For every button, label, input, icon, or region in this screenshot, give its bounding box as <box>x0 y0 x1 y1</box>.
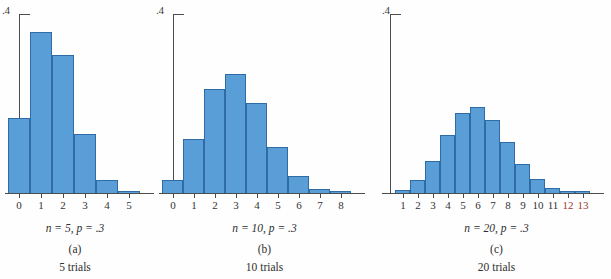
bar <box>425 161 440 193</box>
x-axis-tick <box>257 193 258 198</box>
caption-params-b-text: n = 10, p = .3 <box>232 222 296 234</box>
x-axis-tick <box>194 193 195 198</box>
bar <box>8 118 30 193</box>
bar-series-b <box>152 0 377 193</box>
x-axis-line-b <box>159 193 365 194</box>
bar-series-a <box>0 0 150 193</box>
caption-params-c: n = 20, p = .3 <box>382 222 611 234</box>
bar <box>485 120 500 193</box>
x-axis-tick <box>418 193 419 198</box>
x-axis-tick-label: 11 <box>545 199 561 211</box>
plot-area-a: .4 012345 <box>0 0 150 200</box>
bar <box>96 180 118 193</box>
x-axis-tick-label: 3 <box>227 199 245 211</box>
bar <box>162 180 183 193</box>
x-axis-tick <box>583 193 584 198</box>
chart-panel-a: .4 012345 n = 5, p = .3 (a) 5 trials <box>0 0 150 279</box>
x-axis-tick-label: 4 <box>98 199 116 211</box>
x-axis-tick <box>215 193 216 198</box>
bar <box>440 135 455 193</box>
x-axis-tick-label: 12 <box>560 199 576 211</box>
x-axis-tick <box>85 193 86 198</box>
binomial-distribution-figure: .4 012345 n = 5, p = .3 (a) 5 trials .4 … <box>0 0 611 279</box>
caption-params-c-text: n = 20, p = .3 <box>464 222 528 234</box>
x-axis-tick-label: 1 <box>32 199 50 211</box>
bar <box>52 55 74 193</box>
bar <box>515 164 530 193</box>
x-axis-tick <box>508 193 509 198</box>
x-axis-tick-label: 6 <box>470 199 486 211</box>
bar <box>267 147 288 193</box>
x-axis-tick-label: 1 <box>185 199 203 211</box>
bar <box>74 134 96 193</box>
x-axis-tick <box>553 193 554 198</box>
x-axis-tick-label: 10 <box>530 199 546 211</box>
x-axis-tick <box>463 193 464 198</box>
x-axis-tick-label: 1 <box>395 199 411 211</box>
x-axis-tick <box>19 193 20 198</box>
x-axis-tick <box>129 193 130 198</box>
x-axis-tick <box>568 193 569 198</box>
caption-trials-c: 20 trials <box>382 261 611 273</box>
x-axis-tick-label: 2 <box>410 199 426 211</box>
bar <box>204 89 225 193</box>
x-axis-tick-label: 7 <box>311 199 329 211</box>
x-axis-tick <box>478 193 479 198</box>
x-axis-tick <box>433 193 434 198</box>
plot-area-c: .4 12345678910111213 <box>382 0 611 200</box>
caption-letter-b: (b) <box>152 243 377 255</box>
x-axis-tick <box>523 193 524 198</box>
x-axis-tick-label: 4 <box>248 199 266 211</box>
x-axis-tick <box>341 193 342 198</box>
bar <box>183 139 204 193</box>
plot-area-b: .4 012345678 <box>152 0 377 200</box>
caption-letter-c: (c) <box>382 243 611 255</box>
bar <box>500 142 515 193</box>
x-axis-tick <box>63 193 64 198</box>
x-axis-tick-label: 13 <box>575 199 591 211</box>
x-axis-tick <box>320 193 321 198</box>
caption-trials-a: 5 trials <box>0 261 150 273</box>
x-axis-tick <box>448 193 449 198</box>
x-axis-tick-label: 3 <box>76 199 94 211</box>
bar <box>288 176 309 193</box>
x-axis-tick-label: 2 <box>206 199 224 211</box>
x-axis-tick-label: 9 <box>515 199 531 211</box>
x-axis-tick-label: 5 <box>269 199 287 211</box>
x-axis-line-a <box>5 193 154 194</box>
x-axis-tick-label: 0 <box>164 199 182 211</box>
x-axis-tick-label: 7 <box>485 199 501 211</box>
x-axis-tick-label: 2 <box>54 199 72 211</box>
bar <box>30 32 52 193</box>
x-axis-tick <box>41 193 42 198</box>
caption-trials-b: 10 trials <box>152 261 377 273</box>
x-axis-tick <box>107 193 108 198</box>
x-axis-tick-label: 8 <box>500 199 516 211</box>
chart-panel-b: .4 012345678 n = 10, p = .3 (b) 10 trial… <box>152 0 377 279</box>
bar <box>246 103 267 193</box>
x-axis-tick <box>538 193 539 198</box>
caption-letter-a: (a) <box>0 243 150 255</box>
x-axis-tick-label: 5 <box>120 199 138 211</box>
bar <box>470 107 485 193</box>
caption-params-a: n = 5, p = .3 <box>0 222 150 234</box>
caption-params-a-text: n = 5, p = .3 <box>46 222 105 234</box>
bar <box>225 74 246 193</box>
x-axis-tick <box>173 193 174 198</box>
x-axis-tick <box>236 193 237 198</box>
x-axis-tick <box>403 193 404 198</box>
x-axis-tick-label: 4 <box>440 199 456 211</box>
bar <box>410 180 425 193</box>
x-axis-tick <box>278 193 279 198</box>
chart-panel-c: .4 12345678910111213 n = 20, p = .3 (c) … <box>382 0 611 279</box>
x-axis-tick-label: 5 <box>455 199 471 211</box>
bar <box>530 179 545 193</box>
x-axis-tick <box>493 193 494 198</box>
x-axis-tick <box>299 193 300 198</box>
bar <box>455 113 470 193</box>
bar-series-c <box>382 0 611 193</box>
x-axis-tick-label: 8 <box>332 199 350 211</box>
x-axis-tick-label: 6 <box>290 199 308 211</box>
caption-params-b: n = 10, p = .3 <box>152 222 377 234</box>
x-axis-tick-label: 3 <box>425 199 441 211</box>
